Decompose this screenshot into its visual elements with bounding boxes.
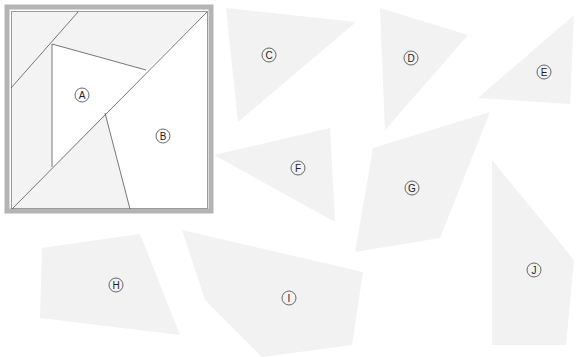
piece-g-shape[interactable] — [355, 112, 490, 252]
piece-c-shape[interactable] — [226, 8, 356, 122]
piece-g-label: G — [408, 183, 416, 194]
piece-d[interactable]: D — [380, 8, 468, 130]
piece-c-label: C — [265, 50, 272, 61]
piece-f[interactable]: F — [214, 128, 335, 222]
piece-j-label: J — [532, 265, 537, 276]
piece-f-label: F — [295, 163, 301, 174]
piece-d-shape[interactable] — [380, 8, 468, 130]
label-b-text: B — [160, 131, 167, 142]
label-b: B — [156, 129, 170, 143]
piece-h[interactable]: H — [40, 234, 180, 335]
piece-d-label: D — [407, 53, 414, 64]
piece-e-label: E — [541, 67, 548, 78]
piece-j[interactable]: J — [492, 160, 574, 345]
piece-h-shape[interactable] — [40, 234, 180, 335]
piece-i-shape[interactable] — [182, 230, 363, 357]
square-puzzle: A B — [7, 7, 211, 211]
piece-i[interactable]: I — [182, 230, 363, 357]
piece-f-shape[interactable] — [214, 128, 335, 222]
piece-c[interactable]: C — [226, 8, 356, 122]
piece-h-label: H — [112, 280, 119, 291]
piece-e-shape[interactable] — [478, 15, 574, 104]
label-a: A — [75, 88, 89, 102]
piece-e[interactable]: E — [478, 15, 574, 104]
puzzle-canvas: A B C D E F G H I — [0, 0, 579, 357]
piece-i-label: I — [288, 293, 291, 304]
piece-j-shape[interactable] — [492, 160, 574, 345]
piece-g[interactable]: G — [355, 112, 490, 252]
label-a-text: A — [79, 90, 86, 101]
